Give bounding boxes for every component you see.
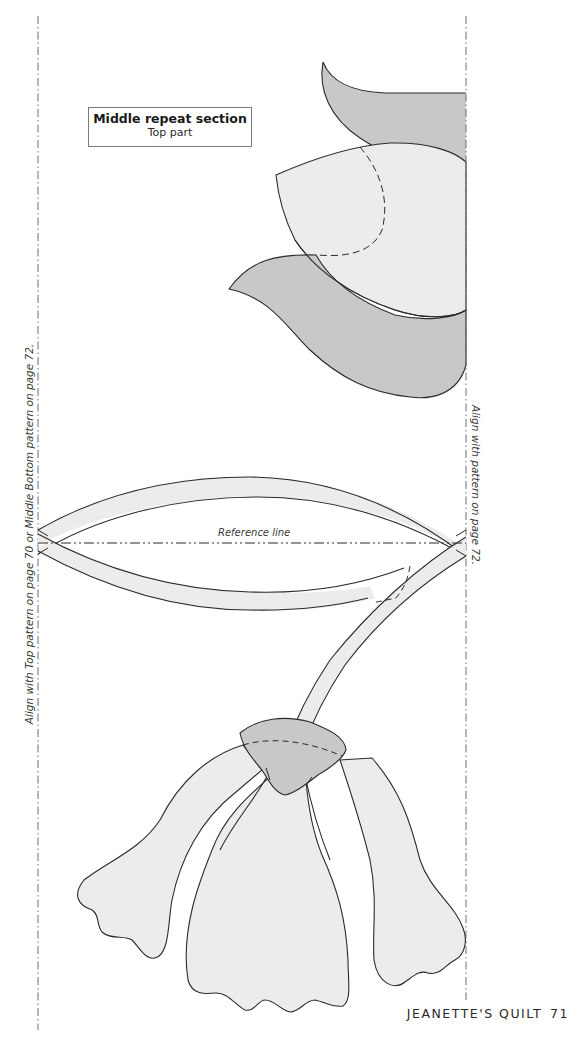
section-label-box: Middle repeat section Top part (88, 107, 252, 147)
right-alignment-note: Align with pattern on page 72. (470, 405, 482, 565)
reference-line-label: Reference line (218, 527, 290, 538)
section-label-title: Middle repeat section (89, 111, 251, 126)
upper-vine-band (38, 477, 466, 556)
page-footer: JEANETTE'S QUILT71 (407, 1006, 569, 1021)
section-label-subtitle: Top part (89, 126, 251, 140)
footer-book-title: JEANETTE'S QUILT (407, 1006, 542, 1021)
flower-right-petal (340, 758, 465, 986)
quilt-pattern-artwork (0, 0, 581, 1042)
left-alignment-note: Align with Top pattern on page 70 or Mid… (23, 344, 35, 724)
footer-page-number: 71 (550, 1006, 569, 1021)
flower-calyx (240, 718, 346, 795)
